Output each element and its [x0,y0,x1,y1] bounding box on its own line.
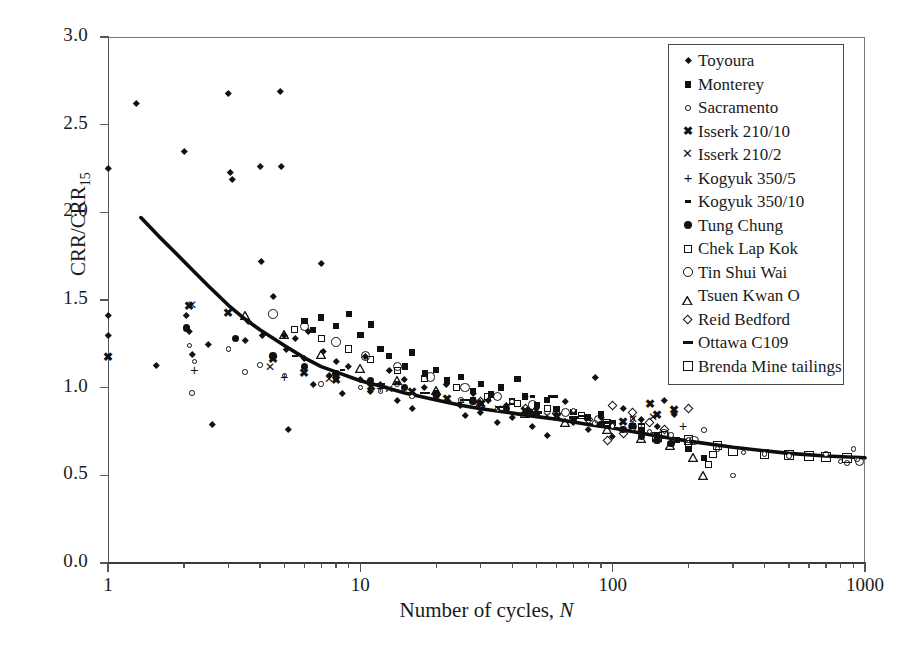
filled-square-icon [678,74,698,94]
x-axis-line [108,562,866,564]
open-small-square-icon [678,239,698,259]
legend-item-label: Toyoura [698,52,754,69]
thin-x-icon: ✕ [678,145,698,165]
legend-box: ToyouraMontereySacramento✖Isserk 210/10✕… [668,44,844,385]
legend-item[interactable]: Monterey [669,73,843,97]
x-tick-mark-minor [825,563,826,568]
wide-dash-icon [678,333,698,353]
x-tick-mark-minor [688,563,689,568]
legend-item-label: Tsuen Kwan O [698,287,800,304]
small-dash-icon [678,192,698,212]
x-axis-title: Number of cycles, N [108,598,865,623]
legend-item-label: Reid Bedford [698,311,790,328]
plus-icon: + [678,168,698,188]
open-diamond-icon [678,309,698,329]
diamond-icon [678,51,698,71]
legend-item-label: Brenda Mine tailings [698,358,842,375]
legend-item[interactable]: Tung Chung [669,214,843,238]
legend-item[interactable]: Reid Bedford [669,308,843,332]
x-axis-title-variable: N [559,598,573,622]
legend-item-label: Tung Chung [698,217,783,234]
legend-item[interactable]: Tin Shui Wai [669,261,843,285]
x-tick-mark-major [107,563,108,572]
legend-item-label: Isserk 210/10 [698,123,790,140]
legend-item[interactable]: Sacramento [669,96,843,120]
x-tick-mark-minor [480,563,481,568]
x-tick-mark-minor [348,563,349,568]
x-tick-mark-minor [732,563,733,568]
x-tick-mark-minor [183,563,184,568]
y-tick-label: 3.0 [48,24,88,46]
x-tick-mark-minor [853,563,854,568]
legend-item-label: Ottawa C109 [698,334,788,351]
open-small-circle-icon [678,98,698,118]
legend-item-label: Sacramento [698,99,778,116]
y-tick-label: 0.0 [48,550,88,572]
x-tick-label: 1 [78,574,138,596]
filled-circle-icon [678,215,698,235]
x-tick-mark-minor [556,563,557,568]
x-tick-mark-minor [764,563,765,568]
x-tick-mark-major [612,563,613,572]
x-tick-mark-minor [228,563,229,568]
x-tick-mark-minor [573,563,574,568]
legend-item-label: Tin Shui Wai [698,264,787,281]
legend-item-label: Kogyuk 350/10 [698,193,804,210]
x-tick-mark-minor [304,563,305,568]
x-tick-mark-minor [536,563,537,568]
legend-item[interactable]: Tsuen Kwan O [669,284,843,308]
x-tick-label: 10 [330,574,390,596]
y-axis-title-subscript: 15 [78,172,93,186]
x-tick-mark-minor [335,563,336,568]
legend-item[interactable]: Ottawa C109 [669,331,843,355]
legend-item-label: Isserk 210/2 [698,146,782,163]
x-tick-mark-major [864,563,865,572]
x-tick-mark-major [360,563,361,572]
x-tick-mark-minor [284,563,285,568]
y-tick-label: 1.0 [48,375,88,397]
x-tick-mark-minor [840,563,841,568]
legend-item-label: Chek Lap Kok [698,240,798,257]
x-tick-mark-minor [788,563,789,568]
legend-item-label: Kogyuk 350/5 [698,170,796,187]
open-square-large-icon [678,356,698,376]
y-tick-label: 2.0 [48,199,88,221]
y-tick-label: 1.5 [48,287,88,309]
legend-item[interactable]: ✖Isserk 210/10 [669,120,843,144]
x-tick-mark-minor [808,563,809,568]
figure-container: CRR/CRR15 0.00.51.01.52.02.53.0 11010010… [0,0,916,666]
figure-caption [6,653,906,666]
x-tick-label: 1000 [835,574,895,596]
legend-item[interactable]: Kogyuk 350/10 [669,190,843,214]
open-triangle-icon [678,286,698,306]
x-tick-mark-minor [321,563,322,568]
legend-item[interactable]: +Kogyuk 350/5 [669,167,843,191]
legend-item[interactable]: ✕Isserk 210/2 [669,143,843,167]
legend-item[interactable]: Toyoura [669,49,843,73]
legend-item[interactable]: Chek Lap Kok [669,237,843,261]
open-circle-icon [678,262,698,282]
y-tick-label: 0.5 [48,462,88,484]
x-axis-title-text: Number of cycles, [400,598,560,622]
x-tick-mark-minor [600,563,601,568]
legend-item-label: Monterey [698,76,764,93]
x-tick-mark-minor [588,563,589,568]
bold-x-icon: ✖ [678,121,698,141]
x-tick-mark-minor [436,563,437,568]
legend-item[interactable]: Brenda Mine tailings [669,355,843,379]
y-tick-label: 2.5 [48,112,88,134]
x-tick-label: 100 [583,574,643,596]
x-tick-mark-minor [512,563,513,568]
x-tick-mark-minor [259,563,260,568]
